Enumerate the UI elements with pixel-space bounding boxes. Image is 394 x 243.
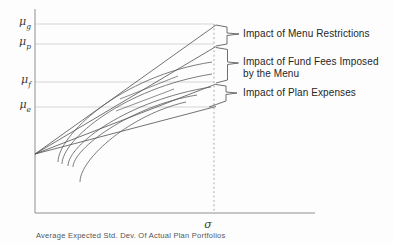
frontier-curve [80,102,186,182]
mu-e-base: μ [19,98,26,111]
tangent-line [35,47,216,155]
annotation-fund-fees: Impact of Fund Fees Imposed by the Menu [243,56,393,80]
mu-g-sub: g [26,22,31,31]
x-axis-caption: Average Expected Std. Dev. Of Actual Pla… [36,231,225,240]
y-axis-label-mu-e: μe [0,99,31,114]
y-axis-label-mu-f: μf [0,74,31,89]
y-axis-label-mu-g: μg [0,16,31,31]
annotation-fund-fees-line2: by the Menu [243,68,393,80]
sigma-label: σ [197,218,219,231]
frontier-impact-figure: μg μp μf μe Impact of Menu Restrictions … [0,0,394,243]
impact-bracket [209,85,237,108]
mu-e-sub: e [27,105,31,114]
annotation-fund-fees-line1: Impact of Fund Fees Imposed [243,56,393,68]
annotation-menu-restrictions: Impact of Menu Restrictions [243,28,393,40]
annotation-plan-expenses-line1: Impact of Plan Expenses [243,87,393,99]
impact-bracket [216,48,239,84]
frontier-curve [73,95,197,167]
frontier-curve [58,62,212,162]
annotation-plan-expenses: Impact of Plan Expenses [243,87,393,99]
mu-p-sub: p [26,42,31,51]
annotation-menu-restrictions-line1: Impact of Menu Restrictions [243,28,393,40]
mu-f-sub: f [28,80,31,89]
y-axis-label-mu-p: μp [0,36,31,51]
impact-bracket [216,25,239,46]
